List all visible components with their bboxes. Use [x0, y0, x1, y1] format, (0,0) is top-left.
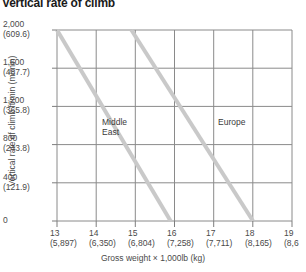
x-tick-19-secondary: (8,6: [284, 239, 299, 249]
x-tick-13-secondary: (5,897): [50, 239, 77, 249]
y-tick-2000-secondary: (609.6): [3, 30, 55, 40]
series-label-middle-east-line2: East: [102, 127, 146, 137]
x-axis-ticks: [57, 221, 292, 227]
series-label-middle-east: Middle East: [102, 117, 146, 137]
y-axis-title: Vertical rate of climb ft/min (m/min): [7, 41, 17, 201]
series-label-europe: Europe: [218, 117, 245, 127]
x-tick-14-secondary: (6,350): [89, 239, 116, 249]
x-tick-16: 16 (7,258): [167, 229, 194, 248]
y-tick-2000: 2,000 (609.6): [3, 20, 55, 39]
x-tick-18: 18 (8,165): [245, 229, 272, 248]
x-tick-15: 15 (6,804): [128, 229, 155, 248]
x-tick-17-secondary: (7,711): [206, 239, 232, 249]
x-tick-15-secondary: (6,804): [128, 239, 155, 249]
chart-figure: Vertical rate of climb: [0, 0, 306, 272]
x-tick-19: 19 (8,6: [284, 229, 299, 248]
x-tick-14: 14 (6,350): [89, 229, 116, 248]
x-axis-title: Gross weight × 1,000lb (kg): [0, 253, 306, 263]
x-tick-16-secondary: (7,258): [167, 239, 194, 249]
grid-lines: [57, 30, 292, 221]
y-tick-0: 0: [3, 216, 55, 226]
x-tick-18-secondary: (8,165): [245, 239, 272, 249]
x-tick-17: 17 (7,711): [206, 229, 232, 248]
y-tick-0-primary: 0: [3, 216, 55, 226]
series-label-middle-east-line1: Middle: [102, 117, 146, 127]
x-tick-13: 13 (5,897): [50, 229, 77, 248]
